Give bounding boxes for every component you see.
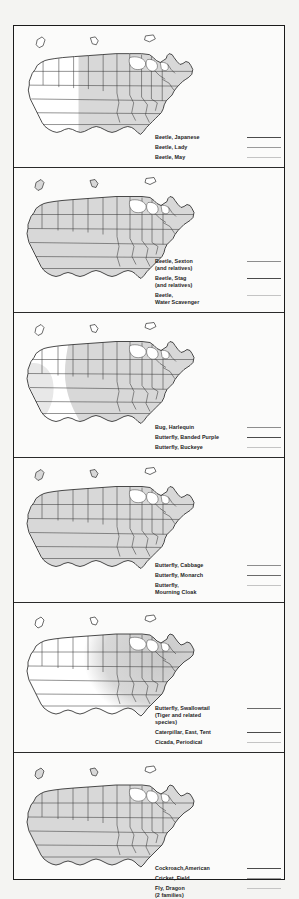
- legend-item: Beetle, Sexton (and relatives): [155, 258, 281, 272]
- legend-item: Beetle, Water Scavenger: [155, 292, 281, 306]
- legend-line-swatch: [247, 729, 281, 736]
- legend-item-label: Beetle, Stag (and relatives): [155, 275, 244, 289]
- legend-line: [247, 585, 281, 586]
- legend-line: [247, 878, 281, 879]
- legend-line-swatch: [247, 739, 281, 746]
- legend-item: Cricket, Field: [155, 875, 281, 882]
- range-map-panel: Beetle, JapaneseBeetle, LadyBeetle, May: [14, 26, 284, 168]
- legend-item: Beetle, Japanese: [155, 134, 281, 141]
- legend-item: Butterfly, Banded Purple: [155, 434, 281, 441]
- map-legend: Cockroach,AmericanCricket, FieldFly, Dra…: [155, 865, 281, 899]
- legend-line: [247, 565, 281, 566]
- legend-line-swatch: [247, 144, 281, 151]
- legend-item-label: Beetle, Water Scavenger: [155, 292, 244, 306]
- range-map-panel: Butterfly, CabbageButterfly, MonarchButt…: [14, 458, 284, 603]
- legend-item-label: Cockroach,American: [155, 865, 244, 872]
- map-legend: Bug, HarlequinButterfly, Banded PurpleBu…: [155, 424, 281, 451]
- legend-line-swatch: [247, 705, 281, 712]
- legend-item-label: Beetle, May: [155, 154, 244, 161]
- range-map-panel: Bug, HarlequinButterfly, Banded PurpleBu…: [14, 313, 284, 458]
- legend-item-label: Beetle, Lady: [155, 144, 244, 151]
- legend-item: Cicada, Periodical: [155, 739, 281, 746]
- legend-line: [247, 137, 281, 138]
- legend-item: Cockroach,American: [155, 865, 281, 872]
- legend-item: Butterfly, Monarch: [155, 572, 281, 579]
- legend-line: [247, 157, 281, 158]
- map-legend: Beetle, Sexton (and relatives)Beetle, St…: [155, 258, 281, 306]
- legend-line: [247, 295, 281, 296]
- legend-line-swatch: [247, 562, 281, 569]
- legend-item: Butterfly, Swallowtail (Tiger and relate…: [155, 705, 281, 726]
- legend-item: Butterfly, Buckeye: [155, 444, 281, 451]
- legend-line-swatch: [247, 572, 281, 579]
- legend-item: Butterfly, Cabbage: [155, 562, 281, 569]
- legend-item-label: Butterfly, Buckeye: [155, 444, 244, 451]
- map-legend: Beetle, JapaneseBeetle, LadyBeetle, May: [155, 134, 281, 161]
- legend-line-swatch: [247, 134, 281, 141]
- map-plate: Beetle, JapaneseBeetle, LadyBeetle, MayB…: [13, 25, 285, 880]
- legend-item-label: Butterfly, Banded Purple: [155, 434, 244, 441]
- legend-item: Beetle, May: [155, 154, 281, 161]
- legend-item-label: Butterfly, Monarch: [155, 572, 244, 579]
- range-map-panel: Cockroach,AmericanCricket, FieldFly, Dra…: [14, 753, 284, 899]
- legend-item: Beetle, Stag (and relatives): [155, 275, 281, 289]
- legend-item: Fly, Dragon (2 families): [155, 885, 281, 899]
- legend-item-label: Cicada, Periodical: [155, 739, 244, 746]
- map-legend: Butterfly, Swallowtail (Tiger and relate…: [155, 705, 281, 746]
- legend-item: Bug, Harlequin: [155, 424, 281, 431]
- legend-item-label: Cricket, Field: [155, 875, 244, 882]
- legend-line: [247, 742, 281, 743]
- legend-item: Butterfly, Mourning Cloak: [155, 582, 281, 596]
- legend-line-swatch: [247, 434, 281, 441]
- range-map-panel: Beetle, Sexton (and relatives)Beetle, St…: [14, 168, 284, 313]
- legend-item-label: Butterfly, Mourning Cloak: [155, 582, 244, 596]
- legend-line: [247, 427, 281, 428]
- legend-line: [247, 437, 281, 438]
- legend-item: Caterpillar, East, Tent: [155, 729, 281, 736]
- map-legend: Butterfly, CabbageButterfly, MonarchButt…: [155, 562, 281, 596]
- legend-line: [247, 278, 281, 279]
- legend-item-label: Bug, Harlequin: [155, 424, 244, 431]
- legend-item-label: Beetle, Japanese: [155, 134, 244, 141]
- legend-line: [247, 147, 281, 148]
- legend-line-swatch: [247, 885, 281, 892]
- legend-line-swatch: [247, 154, 281, 161]
- legend-line-swatch: [247, 292, 281, 299]
- legend-line-swatch: [247, 582, 281, 589]
- legend-item-label: Beetle, Sexton (and relatives): [155, 258, 244, 272]
- legend-line-swatch: [247, 258, 281, 265]
- legend-item-label: Caterpillar, East, Tent: [155, 729, 244, 736]
- legend-line: [247, 447, 281, 448]
- legend-line-swatch: [247, 865, 281, 872]
- range-map-panel: Butterfly, Swallowtail (Tiger and relate…: [14, 603, 284, 753]
- legend-line-swatch: [247, 275, 281, 282]
- legend-line-swatch: [247, 444, 281, 451]
- legend-line: [247, 708, 281, 709]
- legend-line: [247, 732, 281, 733]
- legend-item-label: Fly, Dragon (2 families): [155, 885, 244, 899]
- legend-item-label: Butterfly, Cabbage: [155, 562, 244, 569]
- legend-line: [247, 575, 281, 576]
- legend-line: [247, 888, 281, 889]
- legend-line-swatch: [247, 875, 281, 882]
- legend-line-swatch: [247, 424, 281, 431]
- legend-item: Beetle, Lady: [155, 144, 281, 151]
- legend-item-label: Butterfly, Swallowtail (Tiger and relate…: [155, 705, 244, 726]
- legend-line: [247, 261, 281, 262]
- legend-line: [247, 868, 281, 869]
